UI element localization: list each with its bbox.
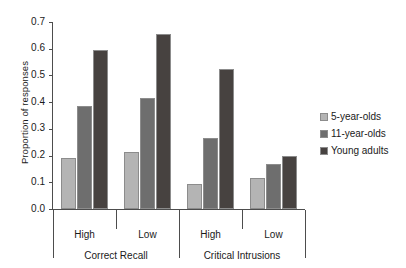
bar bbox=[187, 184, 202, 209]
legend-label: 5-year-olds bbox=[331, 111, 381, 122]
legend-item: 5-year-olds bbox=[320, 108, 406, 125]
bar bbox=[203, 138, 218, 209]
plot-area bbox=[53, 22, 305, 209]
bar bbox=[266, 164, 281, 209]
x-axis-divider bbox=[116, 210, 117, 229]
legend: 5-year-olds11-year-oldsYoung adults bbox=[320, 108, 406, 159]
legend-swatch bbox=[320, 113, 328, 121]
y-axis-tick-label: 0.6 bbox=[31, 42, 45, 53]
bar bbox=[140, 98, 155, 209]
y-axis-tick-label: 0.0 bbox=[31, 203, 45, 214]
legend-label: Young adults bbox=[331, 145, 388, 156]
legend-item: 11-year-olds bbox=[320, 125, 406, 142]
y-axis-tick-label: 0.4 bbox=[31, 96, 45, 107]
y-axis-tick-label: 0.3 bbox=[31, 122, 45, 133]
y-axis-tick-label: 0.7 bbox=[31, 16, 45, 27]
bar-group bbox=[179, 22, 242, 209]
legend-item: Young adults bbox=[320, 142, 406, 159]
bar bbox=[77, 106, 92, 209]
legend-swatch bbox=[320, 147, 328, 155]
y-axis-title: Proportion of responses bbox=[19, 28, 30, 198]
bar-chart-figure: Proportion of responses 0.00.10.20.30.40… bbox=[0, 0, 406, 268]
bar bbox=[219, 69, 234, 209]
bar-group bbox=[116, 22, 179, 209]
bar bbox=[93, 50, 108, 209]
bar bbox=[156, 34, 171, 209]
bar bbox=[282, 156, 297, 209]
x-axis-brackets: HighLowHighLowCorrect RecallCritical Int… bbox=[53, 210, 305, 268]
bar bbox=[250, 178, 265, 209]
y-axis: Proportion of responses 0.00.10.20.30.40… bbox=[0, 0, 53, 268]
x-axis-sub-label: High bbox=[53, 229, 116, 240]
y-axis-tick-label: 0.2 bbox=[31, 149, 45, 160]
x-axis-divider bbox=[242, 210, 243, 229]
bar bbox=[61, 158, 76, 209]
x-axis-divider bbox=[305, 210, 306, 258]
x-axis-group-label: Correct Recall bbox=[53, 250, 179, 261]
bar-group bbox=[242, 22, 305, 209]
bar-group bbox=[53, 22, 116, 209]
x-axis-sub-label: Low bbox=[116, 229, 179, 240]
bar bbox=[124, 152, 139, 209]
x-axis-sub-label: Low bbox=[242, 229, 305, 240]
x-axis-group-label: Critical Intrusions bbox=[179, 250, 305, 261]
y-axis-tick-label: 0.1 bbox=[31, 176, 45, 187]
x-axis-sub-label: High bbox=[179, 229, 242, 240]
legend-label: 11-year-olds bbox=[331, 128, 386, 139]
y-axis-tick-label: 0.5 bbox=[31, 69, 45, 80]
legend-swatch bbox=[320, 130, 328, 138]
